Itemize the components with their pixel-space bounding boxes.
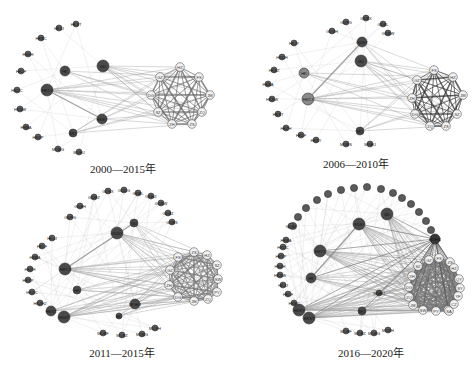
node-zh: ZH <box>168 120 177 129</box>
node-dg: DG <box>405 283 414 292</box>
svg-text:GDFG: GDFG <box>340 20 352 25</box>
node-jm: JM <box>190 297 199 306</box>
node-hk: HK <box>73 286 81 294</box>
svg-text:SZ: SZ <box>454 112 460 117</box>
svg-text:DG: DG <box>406 285 412 290</box>
svg-text:ZS: ZS <box>189 122 194 127</box>
node-hkdc: HKDC <box>11 87 22 93</box>
node-dg: DG <box>147 91 156 100</box>
node-unlabeled <box>427 226 434 233</box>
node-zq: ZQ <box>198 108 207 117</box>
svg-text:MO: MO <box>357 129 363 134</box>
node-gdfg: GDFG <box>64 214 76 220</box>
node-gdmz: GDMZ <box>88 194 100 200</box>
node-hkjj: HKJJ <box>54 25 64 31</box>
node-hksy: HKSY <box>311 137 322 143</box>
edge <box>309 311 449 318</box>
svg-text:JM: JM <box>207 93 212 98</box>
svg-text:GZ: GZ <box>426 258 432 263</box>
svg-text:MOSH: MOSH <box>382 328 394 333</box>
node-sy: SY <box>456 284 465 293</box>
svg-text:ZQ: ZQ <box>199 110 205 115</box>
svg-text:HKTJ: HKTJ <box>303 97 313 102</box>
node-unlabeled <box>389 189 396 196</box>
svg-text:HK: HK <box>62 69 68 74</box>
node-hkbc: HKBC <box>35 35 46 41</box>
svg-text:JM: JM <box>191 299 196 304</box>
svg-text:HKLF: HKLF <box>37 244 48 249</box>
svg-text:HKBA: HKBA <box>21 125 32 130</box>
svg-text:GZ: GZ <box>414 78 420 83</box>
node-unlabeled <box>337 186 344 193</box>
node-hksy: HKSY <box>293 304 305 316</box>
svg-text:GDSH: GDSH <box>326 29 338 34</box>
node-hkba: HKBA <box>263 81 274 87</box>
svg-text:MOHJ: MOHJ <box>129 302 140 307</box>
svg-text:MO: MO <box>116 314 122 319</box>
svg-text:HKSW: HKSW <box>266 97 278 102</box>
node-gz: GZ <box>166 266 175 275</box>
node-zh: ZH <box>165 281 174 290</box>
node-hkjj: HKJJ <box>47 235 57 241</box>
node-zs: ZS <box>442 122 451 131</box>
svg-text:GDSY: GDSY <box>111 231 123 236</box>
node-mo: MO <box>358 307 366 315</box>
network-panel-2016-2020: GDBSGDBZHKBAHKDCHKYPHKZHHKSWHKJJHKLFHKBC… <box>238 180 476 372</box>
node-mohj: MOHJ <box>129 299 140 309</box>
node-hkdc: HKDC <box>26 289 37 295</box>
svg-text:HKLF: HKLF <box>16 69 27 74</box>
node-mobf: MOBF <box>97 330 109 336</box>
svg-text:GDSX: GDSX <box>360 16 372 21</box>
node-gdfg: GDFG <box>340 19 352 25</box>
node-sw: SW <box>214 275 223 284</box>
node-fs: FS <box>195 73 204 82</box>
svg-text:HKSY: HKSY <box>59 315 70 320</box>
svg-text:HKJJ: HKJJ <box>47 236 57 241</box>
svg-text:MOSH: MOSH <box>149 326 161 331</box>
svg-text:DG: DG <box>175 295 181 300</box>
node-mosh: MOSH <box>149 325 161 331</box>
node-mohj: MOHJ <box>373 290 384 296</box>
node-py: PY <box>213 288 222 297</box>
svg-text:GD: GD <box>384 212 390 217</box>
node-hksz: HKSZ <box>269 67 280 73</box>
node-dg: DG <box>411 110 420 119</box>
svg-text:JM: JM <box>460 93 465 98</box>
edge <box>28 280 77 290</box>
svg-text:ZQ: ZQ <box>205 297 211 302</box>
edge <box>294 43 360 131</box>
node-hkdc: HKDC <box>277 244 288 250</box>
node-fs: FS <box>435 254 444 263</box>
svg-text:HKSY: HKSY <box>294 308 305 313</box>
node-hktj: HKTJ <box>314 245 326 257</box>
svg-text:GDSW: GDSW <box>382 31 395 36</box>
edge <box>304 73 346 144</box>
node-gdbl: GDBL <box>133 190 145 196</box>
node-fs: FS <box>430 66 439 75</box>
node-hklf: HKLF <box>37 243 48 249</box>
node-unlabeled <box>294 213 301 220</box>
node-gdsy: GDSY <box>111 227 123 239</box>
node-jm: JM <box>409 301 418 310</box>
svg-text:MOBF: MOBF <box>97 331 109 336</box>
svg-text:HKTJ: HKTJ <box>60 267 70 272</box>
node-hksw: HKSW <box>274 272 286 278</box>
node-mobf: MOBF <box>340 328 352 334</box>
node-gdbz: GDBZ <box>162 210 174 216</box>
svg-text:HZ: HZ <box>450 75 456 80</box>
node-hk: HK <box>60 66 70 76</box>
node-mosh: MOSH <box>382 327 394 333</box>
svg-text:HKST: HKST <box>273 112 284 117</box>
svg-text:HKSZ: HKSZ <box>269 68 280 73</box>
svg-text:HKLF: HKLF <box>283 292 294 297</box>
network-graph: HKSTHKJJHKBCHKZHHKLFHKDCHKSWHKBAHKYPMOBG… <box>0 0 238 186</box>
svg-text:FS: FS <box>436 256 441 261</box>
svg-text:HKLF: HKLF <box>296 133 307 138</box>
node-hk: HK <box>299 68 309 78</box>
node-gdsy: GDSY <box>353 218 365 230</box>
svg-text:HKSW: HKSW <box>274 273 286 278</box>
node-mobs: MOBS <box>340 141 352 147</box>
svg-text:HKBA: HKBA <box>263 82 274 87</box>
edge <box>47 24 76 90</box>
svg-text:MOBG: MOBG <box>368 331 380 336</box>
